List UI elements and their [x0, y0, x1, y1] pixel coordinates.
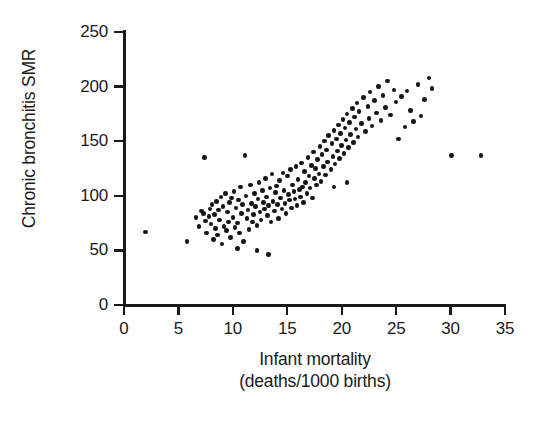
data-point	[403, 125, 408, 130]
data-point	[374, 111, 379, 116]
data-point	[319, 179, 324, 184]
data-point	[368, 90, 373, 95]
data-point	[283, 201, 288, 206]
x-tick-15	[286, 306, 288, 315]
data-point	[331, 154, 336, 159]
data-point	[248, 183, 253, 188]
data-point	[345, 112, 350, 117]
data-point	[292, 189, 297, 194]
x-tick-label-20: 20	[322, 320, 362, 337]
data-point	[247, 227, 252, 232]
x-tick-5	[177, 306, 179, 315]
y-tick-label-250: 250	[62, 23, 108, 40]
data-point	[381, 93, 386, 98]
data-point	[399, 94, 404, 99]
data-point	[308, 186, 313, 191]
data-point	[278, 196, 283, 201]
y-tick-label-0: 0	[62, 296, 108, 313]
data-point	[269, 220, 274, 225]
data-point	[367, 116, 372, 121]
data-point	[250, 220, 255, 225]
data-point	[303, 180, 308, 185]
data-point	[300, 185, 305, 190]
x-tick-label-0: 0	[104, 320, 144, 337]
plot-data-area	[124, 32, 505, 305]
data-point	[235, 246, 240, 251]
data-point	[239, 211, 244, 216]
data-point	[235, 221, 240, 226]
data-point	[219, 195, 224, 200]
data-point	[217, 218, 222, 223]
data-point	[258, 210, 263, 215]
data-point	[342, 151, 347, 156]
data-point	[286, 192, 291, 197]
data-point	[372, 98, 377, 103]
x-tick-label-10: 10	[213, 320, 253, 337]
data-point	[339, 143, 344, 148]
data-point	[334, 137, 339, 142]
data-point	[255, 223, 260, 228]
data-point	[430, 86, 435, 91]
data-point	[306, 155, 311, 160]
data-point	[314, 183, 319, 188]
data-point	[330, 141, 335, 146]
data-point	[310, 196, 315, 201]
data-point	[216, 208, 221, 213]
data-point	[194, 215, 199, 220]
data-point	[427, 76, 432, 81]
x-tick-label-15: 15	[267, 320, 307, 337]
data-point	[295, 203, 300, 208]
data-point	[202, 155, 207, 160]
data-point	[260, 188, 265, 193]
x-tick-20	[341, 306, 343, 315]
data-point	[419, 114, 424, 119]
data-point	[318, 144, 323, 149]
data-point	[284, 211, 289, 216]
x-tick-10	[232, 306, 234, 315]
data-point	[344, 138, 349, 143]
data-point	[261, 200, 266, 205]
data-point	[323, 173, 328, 178]
data-point	[321, 164, 326, 169]
data-point	[221, 204, 226, 209]
data-point	[251, 212, 256, 217]
data-point	[257, 180, 262, 185]
data-point	[376, 84, 381, 89]
data-point	[315, 157, 320, 162]
data-point	[263, 176, 268, 181]
data-point	[287, 198, 292, 203]
data-point	[275, 202, 280, 207]
data-point	[234, 206, 239, 211]
y-tick-200	[114, 85, 123, 87]
data-point	[411, 119, 416, 124]
data-point	[370, 124, 375, 129]
data-point	[253, 204, 258, 209]
data-point	[225, 210, 230, 215]
data-point	[385, 79, 390, 84]
data-point	[383, 105, 388, 110]
data-point	[255, 248, 260, 253]
data-point	[332, 128, 337, 133]
y-tick-label-150: 150	[62, 132, 108, 149]
scatter-plot-figure: Chronic bronchitis SMR 050100150200250 0…	[0, 0, 538, 425]
data-point	[313, 166, 318, 171]
data-point	[363, 129, 368, 134]
data-point	[449, 153, 454, 158]
data-point	[276, 216, 281, 221]
data-point	[231, 215, 236, 220]
x-tick-25	[395, 306, 397, 315]
data-point	[244, 194, 249, 199]
data-point	[223, 191, 228, 196]
data-point	[312, 176, 317, 181]
data-point	[333, 162, 338, 167]
y-tick-50	[114, 249, 123, 251]
data-point	[214, 199, 219, 204]
data-point	[256, 197, 261, 202]
data-point	[215, 233, 220, 238]
data-point	[343, 126, 348, 131]
data-point	[317, 172, 322, 177]
data-point	[266, 203, 271, 208]
data-point	[208, 207, 213, 212]
data-point	[354, 127, 359, 132]
y-tick-label-100: 100	[62, 187, 108, 204]
